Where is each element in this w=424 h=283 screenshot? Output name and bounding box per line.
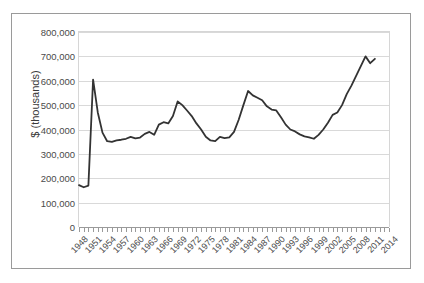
x-axis-tick bbox=[384, 228, 385, 232]
x-axis-tick bbox=[117, 228, 118, 232]
x-axis-tick bbox=[159, 228, 160, 232]
x-axis-tick bbox=[347, 228, 348, 232]
x-axis-tick bbox=[314, 228, 315, 232]
x-axis-tick bbox=[98, 228, 99, 232]
plot-area: 0100,000200,000300,000400,000500,000600,… bbox=[78, 31, 390, 227]
x-axis-tick bbox=[248, 228, 249, 232]
x-axis-tick bbox=[220, 228, 221, 232]
x-axis-tick bbox=[361, 228, 362, 232]
x-axis-tick bbox=[215, 228, 216, 232]
x-axis-tick bbox=[206, 228, 207, 232]
x-axis-tick bbox=[323, 228, 324, 232]
x-axis-tick bbox=[229, 228, 230, 232]
y-axis-tick-label: 0 bbox=[13, 222, 75, 233]
y-axis-tick-label: 800,000 bbox=[13, 27, 75, 38]
x-axis-tick bbox=[192, 228, 193, 232]
x-axis-tick bbox=[154, 228, 155, 232]
x-axis-tick bbox=[121, 228, 122, 232]
y-axis-tick-label: 100,000 bbox=[13, 197, 75, 208]
x-axis-tick bbox=[389, 228, 390, 232]
y-axis-tick-label: 400,000 bbox=[13, 124, 75, 135]
x-axis-tick bbox=[182, 228, 183, 232]
x-axis-tick bbox=[304, 228, 305, 232]
x-axis-tick bbox=[375, 228, 376, 232]
x-axis-tick bbox=[102, 228, 103, 232]
x-axis-tick bbox=[178, 228, 179, 232]
x-axis-tick bbox=[131, 228, 132, 232]
x-axis-tick bbox=[196, 228, 197, 232]
data-series-line bbox=[79, 32, 389, 227]
x-axis-tick bbox=[262, 228, 263, 232]
x-axis-tick bbox=[79, 228, 80, 232]
x-axis-tick bbox=[145, 228, 146, 232]
x-axis-tick bbox=[300, 228, 301, 232]
x-axis-tick bbox=[211, 228, 212, 232]
x-axis-tick bbox=[93, 228, 94, 232]
x-axis-tick bbox=[126, 228, 127, 232]
x-axis-tick bbox=[84, 228, 85, 232]
x-axis-tick bbox=[88, 228, 89, 232]
x-axis-tick bbox=[337, 228, 338, 232]
x-axis-tick bbox=[333, 228, 334, 232]
x-axis-tick bbox=[319, 228, 320, 232]
x-axis-tick bbox=[380, 228, 381, 232]
x-axis-tick bbox=[272, 228, 273, 232]
y-axis-tick-label: 600,000 bbox=[13, 75, 75, 86]
x-axis-tick bbox=[328, 228, 329, 232]
x-axis-tick bbox=[149, 228, 150, 232]
x-axis-tick bbox=[173, 228, 174, 232]
x-axis-tick bbox=[243, 228, 244, 232]
x-axis-tick bbox=[281, 228, 282, 232]
y-axis-tick-label: 700,000 bbox=[13, 51, 75, 62]
chart-figure: $ (thousands) 0100,000200,000300,000400,… bbox=[11, 13, 411, 269]
x-axis-tick bbox=[295, 228, 296, 232]
x-axis-tick bbox=[239, 228, 240, 232]
y-axis-tick-label: 500,000 bbox=[13, 100, 75, 111]
x-axis-tick bbox=[370, 228, 371, 232]
y-axis-tick-label: 200,000 bbox=[13, 173, 75, 184]
x-axis-tick bbox=[225, 228, 226, 232]
x-axis-tick bbox=[257, 228, 258, 232]
x-axis-tick bbox=[286, 228, 287, 232]
x-axis-tick bbox=[267, 228, 268, 232]
x-axis-tick bbox=[309, 228, 310, 232]
x-axis-tick bbox=[140, 228, 141, 232]
x-axis-tick bbox=[342, 228, 343, 232]
x-axis-tick bbox=[135, 228, 136, 232]
x-axis-tick bbox=[351, 228, 352, 232]
x-axis-tick bbox=[168, 228, 169, 232]
x-axis-tick bbox=[201, 228, 202, 232]
x-axis-tick bbox=[366, 228, 367, 232]
x-axis-tick bbox=[187, 228, 188, 232]
x-axis-tick bbox=[276, 228, 277, 232]
x-axis-tick bbox=[164, 228, 165, 232]
y-axis-tick-label: 300,000 bbox=[13, 148, 75, 159]
x-axis-tick bbox=[290, 228, 291, 232]
x-axis-tick bbox=[356, 228, 357, 232]
x-axis-tick bbox=[107, 228, 108, 232]
x-axis-tick bbox=[253, 228, 254, 232]
x-axis-tick bbox=[234, 228, 235, 232]
x-axis-tick bbox=[112, 228, 113, 232]
